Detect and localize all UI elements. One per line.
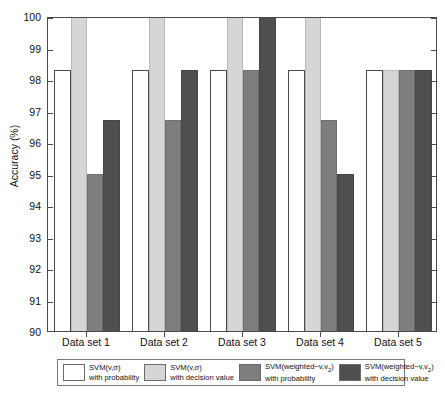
bar-4-2 — [305, 17, 321, 331]
bar-2-4 — [181, 70, 197, 331]
legend-swatch-3 — [239, 364, 261, 381]
bar-5-1 — [366, 70, 382, 331]
bar-3-1 — [210, 70, 226, 331]
y-tick-93 — [48, 239, 53, 240]
y-tick-97 — [48, 113, 53, 114]
y-tick-label-99: 99 — [3, 43, 41, 55]
y-tick-label-96: 96 — [3, 137, 41, 149]
chart-figure: Accuracy (%) 90919293949596979899100 Dat… — [0, 0, 445, 394]
bar-2-1 — [132, 70, 148, 331]
bar-4-1 — [288, 70, 304, 331]
legend-swatch-2 — [144, 364, 166, 381]
y-tick-label-93: 93 — [3, 232, 41, 244]
chart-legend: SVM(v,σ)with probabilitySVM(v,σ)with dec… — [57, 359, 405, 386]
y-tick-92 — [48, 270, 53, 271]
legend-label-2: SVM(v,σ)with decision value — [170, 363, 234, 381]
bar-5-4 — [415, 70, 431, 331]
y-tick-95 — [48, 176, 53, 177]
bar-1-1 — [54, 70, 70, 331]
legend-label-1: SVM(v,σ)with probability — [89, 363, 139, 381]
y-tick-label-100: 100 — [3, 11, 41, 23]
legend-item-3: SVM(weighted−v,v2)with probability — [234, 360, 334, 385]
y-tick-100 — [48, 18, 53, 19]
y-tick-label-91: 91 — [3, 295, 41, 307]
bar-group-4 — [288, 18, 354, 331]
bar-group-5 — [366, 18, 432, 331]
y-tick-98 — [48, 81, 53, 82]
bar-4-4 — [337, 174, 353, 332]
bar-1-4 — [103, 120, 119, 331]
bar-1-2 — [71, 17, 87, 331]
y-tick-96 — [48, 144, 53, 145]
y-tick-94 — [48, 207, 53, 208]
bar-5-2 — [383, 70, 399, 331]
y-tick-label-98: 98 — [3, 74, 41, 86]
bar-group-3 — [210, 18, 276, 331]
y-tick-label-90: 90 — [3, 326, 41, 338]
legend-label-4: SVM(weighted−v,v2)with decision value — [365, 362, 434, 384]
y-tick-label-95: 95 — [3, 169, 41, 181]
x-tick-label-4: Data set 4 — [296, 336, 344, 348]
plot-area — [47, 17, 437, 332]
legend-item-4: SVM(weighted−v,v2)with decision value — [334, 360, 434, 385]
bar-3-3 — [243, 70, 259, 331]
bar-4-3 — [321, 120, 337, 331]
bar-1-3 — [87, 174, 103, 332]
bar-2-3 — [165, 120, 181, 331]
legend-item-1: SVM(v,σ)with probability — [58, 360, 139, 385]
x-tick-label-2: Data set 2 — [140, 336, 188, 348]
bar-2-2 — [149, 17, 165, 331]
y-tick-label-97: 97 — [3, 106, 41, 118]
y-tick-91 — [48, 302, 53, 303]
y-tick-label-92: 92 — [3, 263, 41, 275]
bar-3-2 — [227, 17, 243, 331]
y-tick-99 — [48, 50, 53, 51]
legend-label-3: SVM(weighted−v,v2)with probability — [265, 362, 334, 384]
x-tick-label-1: Data set 1 — [62, 336, 110, 348]
x-tick-label-5: Data set 5 — [374, 336, 422, 348]
bar-5-3 — [399, 70, 415, 331]
legend-swatch-4 — [339, 364, 361, 381]
y-tick-label-94: 94 — [3, 200, 41, 212]
bar-3-4 — [259, 17, 275, 331]
bar-group-2 — [132, 18, 198, 331]
bar-group-1 — [54, 18, 120, 331]
legend-swatch-1 — [63, 364, 85, 381]
x-tick-label-3: Data set 3 — [218, 336, 266, 348]
legend-item-2: SVM(v,σ)with decision value — [139, 360, 234, 385]
